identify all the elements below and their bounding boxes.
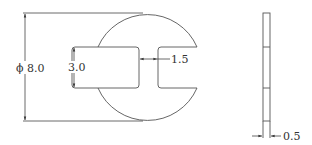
technical-drawing: ϕ 8.0 3.0 1.5 0.5	[0, 0, 312, 145]
thickness-label: 0.5	[283, 130, 301, 143]
part-outline	[72, 15, 197, 121]
diameter-label: ϕ 8.0	[16, 62, 45, 75]
side-view	[263, 13, 270, 138]
slot-height-label: 3.0	[68, 61, 86, 74]
front-view	[72, 15, 197, 121]
slot-left-edge	[98, 47, 139, 88]
web-width-label: 1.5	[171, 53, 189, 66]
